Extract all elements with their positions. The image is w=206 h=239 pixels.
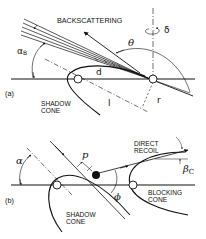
d-label: d [96, 67, 102, 77]
impact-parameter-line [82, 162, 92, 171]
recoil-atom [92, 171, 100, 179]
alpha-b-arc [32, 43, 45, 78]
atom-b-1 [53, 181, 61, 189]
blocking-cone [129, 152, 188, 215]
direct-recoil-label-2: RECOIL [134, 147, 159, 154]
r-line [142, 82, 153, 108]
phi-arc [111, 170, 117, 193]
direct-recoil-label-1: DIRECT [134, 140, 159, 147]
atom-b-2 [129, 181, 137, 189]
p-label: p [82, 149, 89, 160]
alpha-b-label: αB [17, 46, 27, 56]
backscattering-label: BACKSCATTERING [57, 16, 123, 25]
shadow-cone-label-b-2: CONE [66, 218, 86, 225]
theta-label: θ [128, 37, 134, 48]
atom-a-2 [149, 75, 157, 83]
shadow-cone-label-a-1: SHADOW [41, 100, 71, 107]
panel-b: p βC ϕ α (b) DIRECT RECOIL BLOCKING CONE… [5, 137, 195, 232]
r-label: r [157, 95, 161, 105]
beta-c-label: βC [182, 163, 194, 176]
alpha-label: α [16, 155, 23, 166]
shadow-cone-label-a-2: CONE [41, 107, 61, 114]
blocking-cone-label-1: BLOCKING [148, 189, 182, 196]
panel-b-tag: (b) [5, 196, 14, 205]
blocking-cone-label-2: CONE [148, 196, 168, 203]
panel-a-tag: (a) [5, 89, 14, 98]
rotation-arrow-icon [146, 28, 160, 34]
l-label: l [108, 98, 111, 108]
delta-label: δ [164, 25, 170, 35]
shadow-cone-label-b-1: SHADOW [66, 211, 96, 218]
panel-a: BACKSCATTERING δ θ αB d l r [5, 8, 195, 115]
phi-label: ϕ [114, 191, 121, 202]
atom-a-1 [74, 75, 82, 83]
ion-scattering-diagram: BACKSCATTERING δ θ αB d l r [0, 0, 206, 239]
